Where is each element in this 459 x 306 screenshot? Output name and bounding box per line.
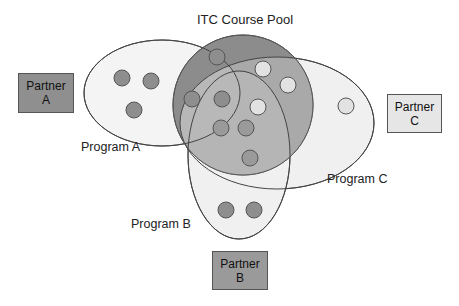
program-c-label: Program C [327,172,387,186]
partner-c-line2: C [410,114,419,128]
course-dot [246,202,262,218]
partner-c-box: Partner C [387,94,442,133]
course-dot [242,150,258,166]
course-dot [214,91,230,107]
course-dot-light [255,61,271,77]
course-dot-light [250,99,266,115]
course-pool-title: ITC Course Pool [197,12,293,27]
partner-b-line2: B [236,271,244,285]
course-dot [218,202,234,218]
partner-c-line1: Partner [395,100,434,114]
partner-b-line1: Partner [220,257,259,271]
course-dot [184,91,200,107]
program-b-label: Program B [131,217,191,231]
partner-a-line2: A [42,93,50,107]
course-dot-light [338,98,354,114]
partner-a-line1: Partner [26,79,65,93]
program-a-label: Program A [81,140,140,154]
course-dot [238,120,254,136]
course-dot [209,49,225,65]
course-dot [213,120,229,136]
course-dot [126,102,142,118]
partner-b-box: Partner B [212,251,268,290]
course-dot-light [280,77,296,93]
course-dot [114,70,130,86]
course-dot [143,73,159,89]
partner-a-box: Partner A [18,73,74,113]
